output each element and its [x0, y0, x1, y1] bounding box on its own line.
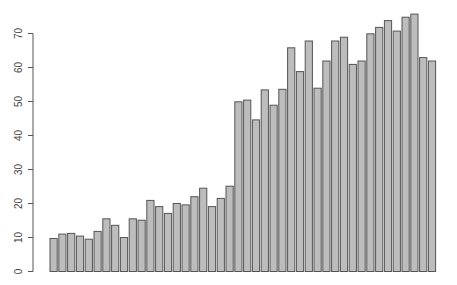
bar	[340, 37, 347, 271]
y-axis: 010203040506070	[13, 28, 33, 275]
y-tick-label: 0	[13, 268, 24, 274]
y-tick-label: 70	[13, 28, 24, 40]
bar	[235, 102, 242, 272]
bar	[208, 207, 215, 272]
bar	[191, 197, 198, 272]
bar	[384, 21, 391, 272]
bar-chart: 010203040506070	[0, 0, 457, 285]
bar	[76, 236, 83, 271]
bar	[103, 219, 110, 272]
bar	[182, 205, 189, 272]
bar	[420, 58, 427, 272]
bar	[112, 225, 119, 271]
bar	[200, 188, 207, 271]
bar	[402, 17, 409, 271]
y-tick-label: 10	[13, 232, 24, 244]
bar	[270, 105, 277, 271]
bar	[367, 34, 374, 272]
bar	[59, 234, 66, 271]
bar	[376, 27, 383, 271]
bar	[173, 204, 180, 272]
bar	[279, 89, 286, 271]
bar	[50, 239, 57, 272]
bar	[261, 90, 268, 272]
bar	[323, 61, 330, 272]
bar	[68, 233, 75, 271]
bar	[164, 213, 171, 271]
bar	[138, 220, 145, 271]
bar	[358, 61, 365, 272]
bar	[393, 31, 400, 271]
bar	[428, 61, 435, 272]
y-tick-label: 30	[13, 164, 24, 176]
bar	[314, 88, 321, 271]
y-tick-label: 20	[13, 198, 24, 210]
bar	[332, 41, 339, 272]
bar	[349, 64, 356, 271]
y-tick-label: 50	[13, 96, 24, 108]
y-tick-label: 40	[13, 130, 24, 142]
bar	[411, 14, 418, 271]
bar	[288, 48, 295, 272]
bar	[252, 120, 259, 272]
bar	[85, 239, 92, 271]
bar	[226, 186, 233, 271]
bar	[156, 207, 163, 272]
bar	[217, 198, 224, 271]
bar	[305, 41, 312, 272]
bar	[94, 231, 101, 271]
bar	[296, 72, 303, 272]
bar	[120, 238, 127, 272]
bar	[129, 219, 136, 272]
bar	[147, 200, 154, 271]
bar	[244, 100, 251, 271]
bars	[50, 14, 436, 271]
y-tick-label: 60	[13, 62, 24, 74]
